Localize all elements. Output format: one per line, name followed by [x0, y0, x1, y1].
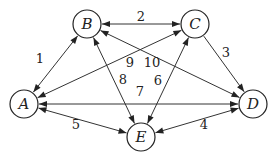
edge-b-d: 10: [101, 31, 240, 98]
edge-weight-label: 9: [126, 55, 134, 70]
arrowhead-icon: [237, 84, 244, 92]
edge-weight-label: 7: [136, 84, 144, 99]
edge-weight-label: 8: [119, 72, 127, 87]
arrowhead-icon: [128, 115, 134, 124]
edge-e-c: 6: [147, 38, 188, 124]
arrowhead-icon: [70, 36, 77, 44]
nodes-layer: ABCDE: [10, 10, 267, 151]
arrowhead-icon: [33, 84, 40, 92]
edge-weight-label: 5: [72, 117, 80, 132]
edge-a-d: 7: [39, 84, 238, 107]
arrowhead-icon: [231, 91, 240, 97]
node-label: C: [189, 15, 201, 33]
arrowhead-icon: [102, 21, 110, 27]
edge-weight-label: 3: [222, 45, 230, 60]
edge-line: [101, 31, 240, 98]
arrowhead-icon: [101, 31, 110, 37]
edge-weight-label: 2: [137, 9, 145, 24]
edge-line: [155, 108, 238, 133]
edge-a-e: 5: [38, 107, 126, 133]
arrowhead-icon: [155, 128, 164, 134]
edge-weight-label: 1: [36, 51, 44, 66]
edge-b-c: 2: [102, 9, 180, 27]
node-a: A: [10, 90, 38, 118]
node-d: D: [239, 90, 267, 118]
node-label: B: [80, 15, 92, 33]
arrowhead-icon: [118, 128, 127, 134]
arrowhead-icon: [182, 38, 188, 47]
edge-e-d: 4: [155, 108, 238, 134]
edge-weight-label: 6: [154, 73, 162, 88]
arrowhead-icon: [230, 101, 238, 107]
node-c: C: [181, 10, 209, 38]
edge-a-b: 1: [33, 36, 77, 92]
edge-weight-label: 10: [144, 55, 161, 70]
edge-weight-label: 4: [200, 117, 208, 132]
node-label: E: [135, 128, 147, 146]
arrowhead-icon: [39, 101, 47, 107]
edge-line: [38, 108, 126, 133]
node-label: D: [246, 95, 259, 113]
node-label: A: [17, 95, 30, 113]
node-e: E: [127, 123, 155, 151]
arrowhead-icon: [93, 38, 99, 47]
edge-b-e: 8: [93, 38, 134, 124]
edges-layer: 12345678910: [33, 9, 244, 134]
arrowhead-icon: [230, 108, 239, 114]
arrowhead-icon: [173, 30, 182, 36]
arrowhead-icon: [38, 107, 47, 113]
arrowhead-icon: [147, 115, 153, 124]
arrowhead-icon: [172, 21, 180, 27]
node-b: B: [73, 10, 101, 38]
graph-diagram: 12345678910 ABCDE: [0, 0, 278, 161]
edge-line: [93, 38, 134, 124]
arrowhead-icon: [38, 92, 47, 98]
